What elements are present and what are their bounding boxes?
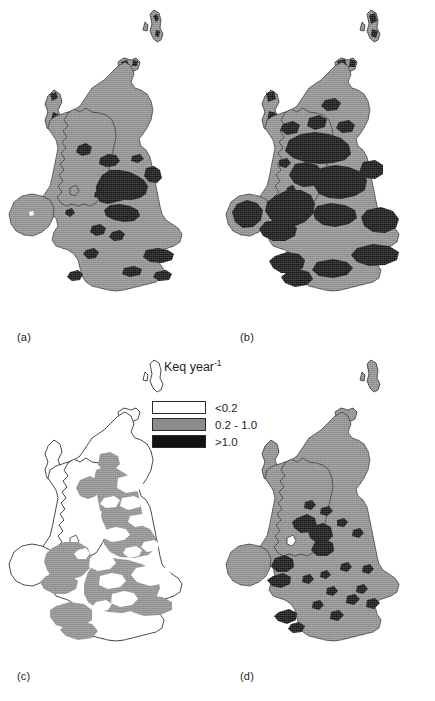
panel-label-d: (d) [240, 670, 254, 682]
panel-label-a: (a) [17, 331, 31, 343]
legend-swatch-high [152, 435, 206, 448]
legend-label-high: >1.0 [215, 436, 238, 448]
legend-swatch-low [152, 401, 206, 414]
legend-item-high: >1.0 [152, 434, 270, 449]
uk-map-a [0, 0, 217, 350]
legend-title: Keq year-1 [164, 358, 270, 374]
panel-label-b: (b) [240, 331, 254, 343]
legend-swatch-mid [152, 418, 206, 431]
map-b-landmass [226, 10, 399, 291]
map-legend: Keq year-1 <0.2 0.2 - 1.0 >1.0 [152, 358, 270, 451]
uk-map-b [217, 0, 435, 350]
legend-title-exponent: -1 [214, 358, 222, 368]
map-panel-b: (b) [217, 0, 435, 350]
legend-item-mid: 0.2 - 1.0 [152, 417, 270, 432]
map-panel-a: (a) [0, 0, 217, 350]
figure-uk-deposition-maps: (a) [0, 0, 435, 701]
legend-item-low: <0.2 [152, 400, 270, 415]
legend-label-low: <0.2 [215, 402, 238, 414]
map-a-landmass [9, 10, 188, 296]
legend-label-mid: 0.2 - 1.0 [215, 419, 257, 431]
panel-label-c: (c) [17, 670, 30, 682]
legend-items: <0.2 0.2 - 1.0 >1.0 [152, 400, 270, 449]
legend-title-text: Keq year [164, 360, 214, 374]
